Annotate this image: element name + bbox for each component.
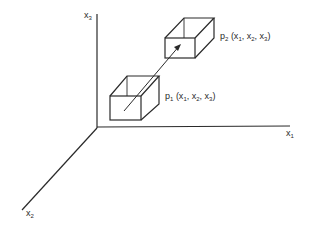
axis-label-x3: x3	[84, 11, 92, 21]
arrow-head-icon	[174, 44, 181, 51]
axis-x2	[22, 128, 97, 210]
point-label-p1: p1 (x1, x2, x3)	[165, 92, 215, 102]
point-label-p2: p2 (x1, x2, x3)	[220, 32, 270, 42]
axis-label-x1: x1	[286, 129, 294, 139]
axis-label-x2: x2	[26, 209, 34, 219]
box-p2	[165, 18, 214, 58]
axis-x1	[97, 126, 290, 127]
